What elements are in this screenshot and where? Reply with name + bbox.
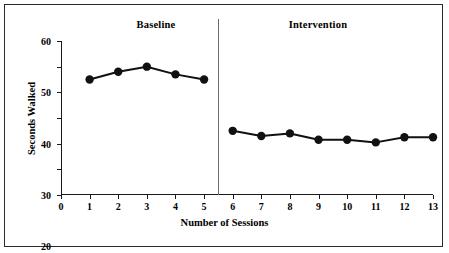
x-tick-mark — [147, 195, 148, 199]
y-axis-title: Seconds Walked — [26, 49, 37, 189]
data-series-layer — [61, 41, 433, 195]
x-tick-label: 13 — [428, 201, 438, 212]
y-tick-label: 50 — [41, 87, 51, 98]
x-tick-label: 2 — [116, 201, 121, 212]
y-tick-label: 60 — [41, 36, 51, 47]
x-tick-label: 7 — [259, 201, 264, 212]
x-tick-mark — [404, 195, 405, 199]
phase-label-baseline: Baseline — [101, 19, 211, 30]
x-tick-mark — [319, 195, 320, 199]
x-tick-label: 10 — [342, 201, 352, 212]
x-tick-mark — [290, 195, 291, 199]
data-point-marker — [257, 132, 265, 140]
data-point-marker — [314, 136, 322, 144]
x-tick-mark — [204, 195, 205, 199]
x-tick-label: 8 — [287, 201, 292, 212]
x-tick-label: 11 — [371, 201, 380, 212]
data-point-marker — [143, 62, 151, 70]
x-tick-label: 3 — [144, 201, 149, 212]
x-tick-mark — [261, 195, 262, 199]
data-point-marker — [200, 75, 208, 83]
x-tick-mark — [433, 195, 434, 199]
x-tick-mark — [118, 195, 119, 199]
data-point-marker — [343, 136, 351, 144]
phase-label-intervention: Intervention — [253, 19, 383, 30]
data-point-marker — [85, 75, 93, 83]
x-tick-label: 0 — [59, 201, 64, 212]
data-point-marker — [171, 70, 179, 78]
y-tick-label: 30 — [41, 190, 51, 201]
x-tick-mark — [175, 195, 176, 199]
data-point-marker — [429, 133, 437, 141]
x-tick-mark — [376, 195, 377, 199]
x-tick-label: 4 — [173, 201, 178, 212]
x-tick-mark — [90, 195, 91, 199]
chart-figure: Baseline Intervention Seconds Walked Num… — [4, 4, 443, 247]
plot-area: 0102030405060 012345678910111213 — [61, 41, 433, 195]
y-tick-label: 40 — [41, 138, 51, 149]
x-tick-mark — [61, 195, 62, 199]
x-axis-title: Number of Sessions — [5, 217, 444, 228]
data-point-marker — [228, 127, 236, 135]
data-point-marker — [286, 129, 294, 137]
x-tick-label: 1 — [87, 201, 92, 212]
x-tick-label: 6 — [230, 201, 235, 212]
y-tick-label: 20 — [41, 241, 51, 252]
x-tick-label: 12 — [399, 201, 409, 212]
data-point-marker — [114, 68, 122, 76]
data-point-marker — [372, 138, 380, 146]
x-tick-label: 5 — [202, 201, 207, 212]
data-point-marker — [400, 133, 408, 141]
x-tick-mark — [347, 195, 348, 199]
x-tick-label: 9 — [316, 201, 321, 212]
x-tick-mark — [233, 195, 234, 199]
